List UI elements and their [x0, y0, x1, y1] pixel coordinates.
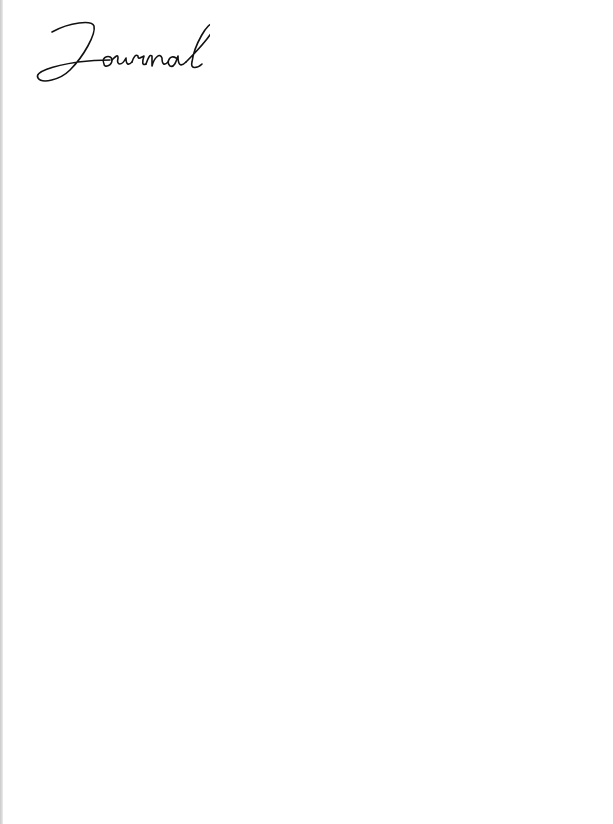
journal-script-title: [30, 16, 210, 84]
page-title: [30, 16, 210, 84]
page-edge: [0, 0, 3, 824]
